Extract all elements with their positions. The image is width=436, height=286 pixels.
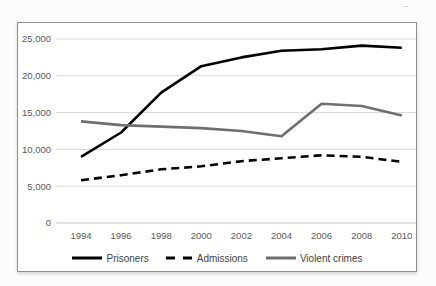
x-tick-label: 2006 <box>311 230 332 241</box>
x-tick-label: 2002 <box>231 230 252 241</box>
y-tick-label: 10,000 <box>22 144 51 155</box>
legend-swatch-violent-crimes-line-icon <box>265 255 297 261</box>
y-tick-label: 0 <box>46 217 51 228</box>
legend-label-prisoners: Prisoners <box>106 253 148 264</box>
legend-item-admissions: Admissions <box>166 253 248 264</box>
legend-item-prisoners: Prisoners <box>71 253 148 264</box>
x-tick-label: 2000 <box>191 230 212 241</box>
x-axis-tick-labels: 199419961998200020022004200620082010 <box>70 230 412 241</box>
x-tick-label: 1996 <box>111 230 132 241</box>
x-tick-label: 2004 <box>271 230 292 241</box>
y-tick-label: 5,000 <box>27 181 51 192</box>
series-line-violent-crimes <box>81 104 402 136</box>
y-tick-label: 20,000 <box>22 70 51 81</box>
chart-svg: 05,00010,00015,00020,00025,0001994199619… <box>18 23 416 271</box>
scan-artifact-mark: ~ <box>402 2 410 13</box>
chart-legend: Prisoners Admissions Violent crimes <box>18 250 416 266</box>
legend-swatch-admissions-dashed-line-icon <box>166 255 194 261</box>
legend-label-violent-crimes: Violent crimes <box>300 253 363 264</box>
series-line-admissions <box>81 155 402 180</box>
y-tick-label: 25,000 <box>22 33 51 44</box>
x-tick-label: 1994 <box>70 230 91 241</box>
legend-label-admissions: Admissions <box>197 253 248 264</box>
chart-frame: 05,00010,00015,00020,00025,0001994199619… <box>17 22 417 272</box>
x-tick-label: 1998 <box>151 230 172 241</box>
y-tick-label: 15,000 <box>22 107 51 118</box>
scanned-figure: ~ ~ 05,00010,00015,00020,00025,000199419… <box>0 0 436 286</box>
legend-swatch-prisoners-line-icon <box>71 255 103 261</box>
y-axis-tick-labels: 05,00010,00015,00020,00025,000 <box>22 33 51 228</box>
x-tick-label: 2010 <box>391 230 412 241</box>
series-line-prisoners <box>81 46 402 157</box>
x-tick-label: 2008 <box>351 230 372 241</box>
legend-item-violent-crimes: Violent crimes <box>265 253 363 264</box>
